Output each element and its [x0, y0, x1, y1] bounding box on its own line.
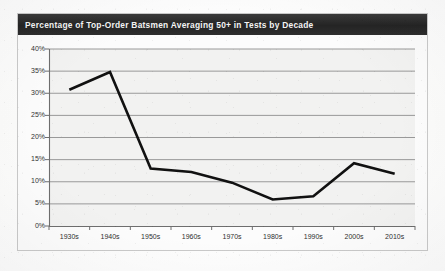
- x-axis-tick-label: 2010s: [374, 233, 415, 240]
- data-series-layer: [0, 0, 445, 271]
- y-axis-tick-label: 40%: [16, 45, 45, 52]
- x-axis-tick-label: 1960s: [171, 233, 212, 240]
- y-axis-tick-label: 5%: [16, 199, 45, 206]
- x-axis-tick-label: 1970s: [212, 233, 253, 240]
- y-axis-tick-label: 25%: [16, 111, 45, 118]
- y-axis-tick-label: 20%: [16, 133, 45, 140]
- y-axis-tick-label: 30%: [16, 89, 45, 96]
- y-axis-tick-label: 35%: [16, 67, 45, 74]
- x-axis-tick-label: 1940s: [90, 233, 131, 240]
- y-axis-tick-label: 10%: [16, 177, 45, 184]
- x-axis-tick-label: 1990s: [293, 233, 334, 240]
- x-axis-tick-label: 1980s: [252, 233, 293, 240]
- x-axis-tick-label: 1950s: [130, 233, 171, 240]
- y-axis-tick-label: 0%: [16, 222, 45, 229]
- line-series-top-order-batsmen: [69, 72, 394, 199]
- chart-screenshot: Percentage of Top-Order Batsmen Averagin…: [0, 0, 445, 271]
- y-axis-tick-label: 15%: [16, 155, 45, 162]
- x-axis-tick-label: 2000s: [334, 233, 375, 240]
- x-axis-tick-label: 1930s: [49, 233, 90, 240]
